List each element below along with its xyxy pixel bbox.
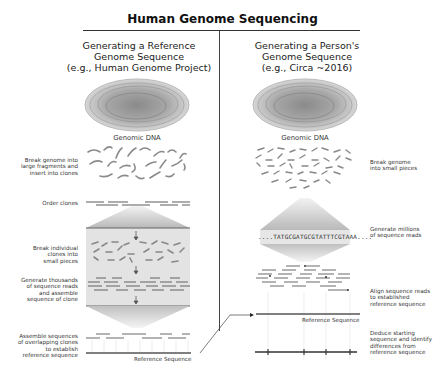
large-fragments-icon	[88, 147, 186, 179]
connector-arrowhead-icon	[250, 313, 254, 317]
right-genomic-dna-label: Genomic DNA	[268, 134, 342, 142]
collapse-shape	[86, 306, 190, 328]
left-genomic-dna-label: Genomic DNA	[100, 134, 174, 142]
sequence-read-text: ....TATGCGATGCGTATTTCGTAAA....	[258, 233, 354, 240]
read-expansion-shape	[260, 198, 350, 230]
left-step-5-label: Assemble sequences of overlapping clones…	[4, 333, 78, 359]
read-collapse-shape	[260, 244, 350, 262]
left-step-2-label: Order clones	[4, 200, 78, 206]
right-small-pieces-icon	[256, 148, 351, 188]
right-reference-sequence-label: Reference Sequence	[302, 317, 360, 323]
diagram-graphics	[0, 0, 445, 381]
left-step-3-label: Break individual clones into small piece…	[4, 245, 78, 264]
clone-expansion-shape	[86, 206, 190, 228]
clone-detail-box	[86, 228, 190, 306]
right-step-1-label: Break genome into small pieces	[370, 159, 444, 172]
left-step-4-label: Generate thousands of sequence reads and…	[4, 277, 78, 303]
right-step-2-label: Generate millions of sequence reads	[370, 226, 444, 239]
left-reference-sequence-label: Reference Sequence	[134, 356, 192, 362]
left-genomic-dna-icon	[85, 79, 189, 131]
left-step-1-label: Break genome into large fragments and in…	[4, 157, 78, 176]
right-genomic-dna-icon	[253, 79, 357, 131]
ordered-clones-icon	[86, 202, 190, 205]
overlapping-clones-icon	[86, 334, 190, 338]
right-step-4-label: Deduce starting sequence and identify di…	[370, 330, 444, 356]
aligned-reads-icon	[256, 266, 350, 290]
right-step-3-label: Align sequence reads to established refe…	[370, 288, 444, 307]
connector-arrow	[200, 315, 252, 353]
